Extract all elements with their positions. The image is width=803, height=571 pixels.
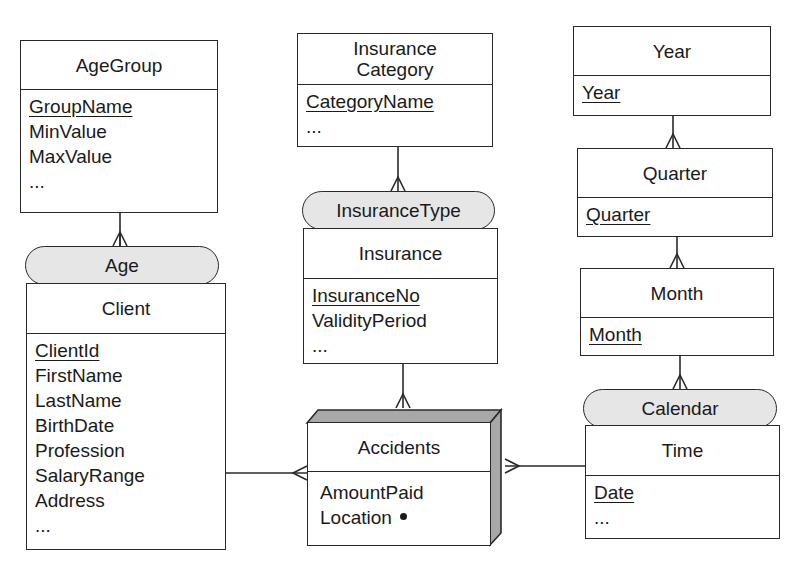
attribute-key: GroupName xyxy=(29,94,217,119)
level-insurance-category-title: Insurance Category xyxy=(298,34,492,85)
level-quarter-title: Quarter xyxy=(578,149,772,198)
level-month-title: Month xyxy=(581,269,773,318)
level-client-title: Client xyxy=(27,284,225,334)
hierarchy-calendar[interactable]: Calendar xyxy=(583,389,777,428)
fact-accidents[interactable]: Accidents AmountPaid Location xyxy=(307,422,491,546)
level-year[interactable]: Year Year xyxy=(573,26,771,116)
measure: AmountPaid xyxy=(320,480,490,505)
attribute: SalaryRange xyxy=(35,463,225,488)
attribute-key: ClientId xyxy=(35,338,225,363)
title-line: Insurance xyxy=(353,38,436,59)
level-insurance-attributes: InsuranceNo ValidityPeriod ... xyxy=(304,279,497,358)
level-month-attributes: Month xyxy=(581,318,773,347)
level-client-attributes: ClientId FirstName LastName BirthDate Pr… xyxy=(27,334,225,538)
bullet-icon xyxy=(400,513,407,520)
attribute-key: Year xyxy=(582,80,770,105)
level-time[interactable]: Time Date ... xyxy=(585,425,780,539)
level-quarter[interactable]: Quarter Quarter xyxy=(577,148,773,237)
title-line: Category xyxy=(356,59,433,80)
attribute-key: Quarter xyxy=(586,202,772,227)
level-agegroup[interactable]: AgeGroup GroupName MinValue MaxValue ... xyxy=(20,40,218,213)
attribute: FirstName xyxy=(35,363,225,388)
level-year-attributes: Year xyxy=(574,76,770,105)
level-client[interactable]: Client ClientId FirstName LastName Birth… xyxy=(26,283,226,550)
hierarchy-insurancetype[interactable]: InsuranceType xyxy=(302,191,495,230)
attribute-key: Date xyxy=(594,480,779,505)
level-insurance[interactable]: Insurance InsuranceNo ValidityPeriod ... xyxy=(303,228,498,364)
level-insurance-title: Insurance xyxy=(304,229,497,279)
level-agegroup-title: AgeGroup xyxy=(21,41,217,90)
attribute-key: Month xyxy=(589,322,773,347)
hierarchy-age[interactable]: Age xyxy=(25,246,219,285)
level-year-title: Year xyxy=(574,27,770,76)
attribute-key: InsuranceNo xyxy=(312,283,497,308)
level-time-title: Time xyxy=(586,426,779,476)
fact-accidents-measures: AmountPaid Location xyxy=(308,472,490,530)
measure: Location xyxy=(320,507,392,528)
attribute: ValidityPeriod xyxy=(312,308,497,333)
attribute: Address xyxy=(35,488,225,513)
measure-row: Location xyxy=(320,505,490,530)
attribute-ellipsis: ... xyxy=(306,114,492,139)
attribute: LastName xyxy=(35,388,225,413)
level-quarter-attributes: Quarter xyxy=(578,198,772,227)
crowfoot-age xyxy=(113,232,127,246)
level-insurance-category[interactable]: Insurance Category CategoryName ... xyxy=(297,33,493,147)
attribute-ellipsis: ... xyxy=(312,333,497,358)
attribute-ellipsis: ... xyxy=(29,169,217,194)
attribute-key: CategoryName xyxy=(306,89,492,114)
level-insurance-category-attributes: CategoryName ... xyxy=(298,85,492,139)
attribute-ellipsis: ... xyxy=(594,505,779,530)
level-time-attributes: Date ... xyxy=(586,476,779,530)
attribute-ellipsis: ... xyxy=(35,513,225,538)
attribute: BirthDate xyxy=(35,413,225,438)
attribute: MinValue xyxy=(29,119,217,144)
level-agegroup-attributes: GroupName MinValue MaxValue ... xyxy=(21,90,217,194)
level-month[interactable]: Month Month xyxy=(580,268,774,356)
fact-accidents-title: Accidents xyxy=(308,423,490,472)
attribute: Profession xyxy=(35,438,225,463)
attribute: MaxValue xyxy=(29,144,217,169)
